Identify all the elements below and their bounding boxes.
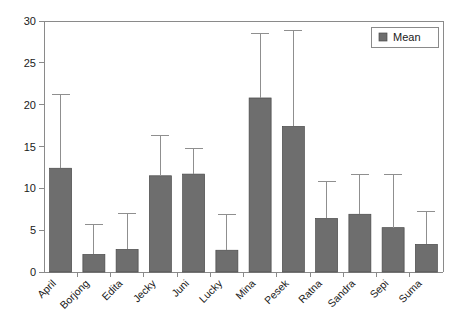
x-axis-category-label: Borjong (57, 277, 91, 311)
bar (83, 254, 105, 272)
error-bars-group (52, 30, 436, 254)
bar (382, 228, 404, 272)
x-axis-category-label: Edita (99, 277, 125, 303)
bar (282, 126, 304, 272)
chart-canvas: 051015202530 AprilBorjongEditaJeckyJuniL… (0, 0, 460, 332)
y-tick-label: 20 (24, 99, 36, 111)
y-tick-label: 10 (24, 182, 36, 194)
bar (116, 249, 138, 272)
bar-chart-figure: 051015202530 AprilBorjongEditaJeckyJuniL… (0, 0, 460, 332)
x-axis-labels: AprilBorjongEditaJeckyJuniLuckyMinaPesek… (35, 276, 424, 311)
bars-group (50, 98, 438, 272)
bar (316, 218, 338, 272)
bar (216, 250, 238, 272)
y-axis-ticks: 051015202530 (24, 15, 44, 278)
x-axis-category-label: Ratna (296, 277, 324, 305)
y-tick-label: 0 (30, 266, 36, 278)
y-tick-label: 25 (24, 57, 36, 69)
x-axis-category-label: Lucky (196, 276, 224, 304)
chart-legend: Mean (371, 27, 438, 47)
x-axis-category-label: Mina (233, 277, 258, 302)
x-axis-category-label: Jecky (130, 276, 158, 304)
legend-swatch-mean (379, 33, 387, 41)
x-axis-category-label: Juni (169, 277, 191, 299)
bar (183, 174, 205, 272)
bar (149, 176, 171, 272)
y-tick-label: 5 (30, 224, 36, 236)
x-axis-category-label: Suma (396, 277, 424, 305)
bar (249, 98, 271, 272)
x-axis-category-label: Pesek (262, 276, 292, 306)
y-tick-label: 30 (24, 15, 36, 27)
x-axis-ticks (77, 272, 410, 277)
legend-label-mean: Mean (393, 31, 421, 43)
y-tick-label: 15 (24, 141, 36, 153)
bar (349, 214, 371, 272)
x-axis-category-label: Sandra (325, 277, 358, 310)
x-axis-category-label: April (35, 277, 58, 300)
bar (415, 244, 437, 272)
x-axis-category-label: Sepi (367, 277, 390, 300)
bar (50, 168, 72, 272)
